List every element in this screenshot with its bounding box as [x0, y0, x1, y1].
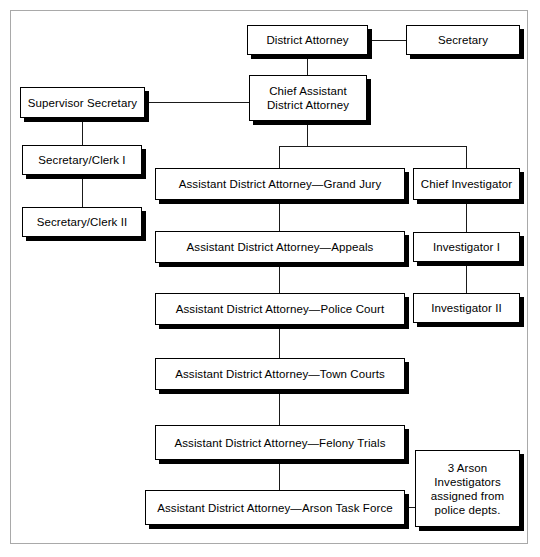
connector-grandjury-to-appeals	[279, 200, 280, 231]
node-chief-assistant-district-attorney[interactable]: Chief Assistant District Attorney	[249, 75, 367, 121]
connector-bus-to-chief-investigator	[466, 146, 467, 168]
node-label: Assistant District Attorney—Felony Trial…	[169, 436, 390, 450]
node-label: Investigator I	[428, 240, 505, 254]
node-label: Chief Assistant District Attorney	[262, 84, 354, 112]
node-label: Secretary	[433, 33, 493, 47]
connector-da-to-chief-assistant	[307, 55, 308, 75]
node-supervisor-secretary[interactable]: Supervisor Secretary	[20, 87, 145, 118]
connector-chiefinvestigator-to-investigator1	[466, 200, 467, 232]
node-secretary-clerk-2[interactable]: Secretary/Clerk II	[22, 207, 142, 237]
node-label: Assistant District Attorney—Police Court	[171, 302, 390, 316]
connector-arson-to-note	[405, 507, 415, 508]
org-chart-canvas: District Attorney Secretary Chief Assist…	[0, 0, 540, 557]
node-label: Chief Investigator	[416, 177, 517, 191]
connector-chief-assistant-stem	[307, 121, 308, 146]
node-arson-investigators-note[interactable]: 3 Arson Investigators assigned from poli…	[415, 450, 520, 527]
node-investigator-1[interactable]: Investigator I	[413, 232, 520, 262]
connector-chief-assistant-to-supervisor-secretary	[145, 102, 249, 103]
connector-policecourt-to-towncourts	[279, 325, 280, 358]
connector-bus	[279, 146, 466, 147]
node-secretary[interactable]: Secretary	[406, 25, 520, 55]
node-ada-arson-task-force[interactable]: Assistant District Attorney—Arson Task F…	[145, 490, 405, 525]
node-label: 3 Arson Investigators assigned from poli…	[426, 461, 510, 517]
connector-investigator1-to-investigator2	[466, 262, 467, 293]
connector-clerk1-to-clerk2	[82, 175, 83, 207]
node-secretary-clerk-1[interactable]: Secretary/Clerk I	[22, 145, 142, 175]
node-label: Supervisor Secretary	[23, 96, 142, 110]
node-label: Assistant District Attorney—Arson Task F…	[152, 501, 398, 515]
node-ada-appeals[interactable]: Assistant District Attorney—Appeals	[155, 231, 405, 263]
connector-bus-to-grand-jury	[279, 146, 280, 168]
node-ada-grand-jury[interactable]: Assistant District Attorney—Grand Jury	[155, 168, 405, 200]
node-label: Assistant District Attorney—Grand Jury	[174, 177, 387, 191]
connector-da-to-secretary	[368, 40, 406, 41]
connector-appeals-to-policecourt	[279, 263, 280, 293]
node-label: Secretary/Clerk I	[33, 153, 130, 167]
node-district-attorney[interactable]: District Attorney	[247, 25, 368, 55]
node-ada-police-court[interactable]: Assistant District Attorney—Police Court	[155, 293, 405, 325]
node-investigator-2[interactable]: Investigator II	[413, 293, 520, 323]
connector-towncourts-to-felonytrials	[279, 390, 280, 425]
node-label: District Attorney	[261, 33, 353, 47]
node-label: Assistant District Attorney—Town Courts	[170, 367, 390, 381]
connector-supervisor-to-clerk1	[82, 118, 83, 145]
node-chief-investigator[interactable]: Chief Investigator	[413, 168, 520, 200]
connector-felonytrials-to-arson	[279, 460, 280, 490]
node-ada-felony-trials[interactable]: Assistant District Attorney—Felony Trial…	[155, 425, 405, 460]
node-label: Investigator II	[426, 301, 507, 315]
node-ada-town-courts[interactable]: Assistant District Attorney—Town Courts	[155, 358, 405, 390]
node-label: Assistant District Attorney—Appeals	[182, 240, 379, 254]
node-label: Secretary/Clerk II	[32, 215, 133, 229]
